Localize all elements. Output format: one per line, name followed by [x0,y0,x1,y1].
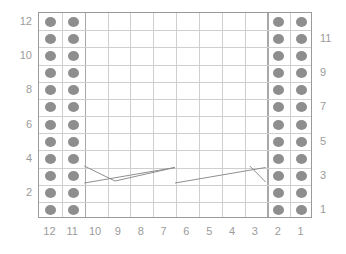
purl-dot-icon [45,68,56,78]
chart-cell-r11-s7 [153,30,176,47]
chart-cell-r3-s8 [130,168,153,185]
chart-cell-r10-s2 [267,47,290,64]
purl-dot-icon [296,137,307,147]
column-label-12: 12 [43,226,55,237]
chart-cell-r5-s12 [39,133,62,150]
purl-dot-icon [296,205,307,215]
row-label-right-7: 7 [320,101,344,112]
chart-cell-r6-s1 [290,116,313,133]
chart-cell-r4-s7 [153,150,176,167]
purl-dot-icon [45,17,56,27]
chart-cell-r8-s8 [130,82,153,99]
chart-cell-r8-s12 [39,82,62,99]
chart-cell-r3-s5 [199,168,222,185]
chart-cell-r12-s11 [62,13,85,30]
chart-cell-r6-s3 [245,116,268,133]
purl-dot-icon [68,102,79,112]
chart-cell-r9-s6 [176,65,199,82]
row-label-left-6: 6 [8,118,32,129]
chart-cell-r8-s3 [245,82,268,99]
chart-cell-r4-s6 [176,150,199,167]
chart-cell-r12-s3 [245,13,268,30]
chart-cell-r8-s10 [85,82,108,99]
purl-dot-icon [273,205,284,215]
purl-dot-icon [273,68,284,78]
chart-cell-r6-s11 [62,116,85,133]
chart-cell-r3-s12 [39,168,62,185]
chart-cell-r5-s8 [130,133,153,150]
chart-cell-r4-s2 [267,150,290,167]
chart-cell-r7-s8 [130,99,153,116]
chart-cells [39,13,311,217]
chart-cell-r12-s12 [39,13,62,30]
chart-cell-r9-s2 [267,65,290,82]
chart-cell-r6-s12 [39,116,62,133]
chart-cell-r11-s9 [108,30,131,47]
chart-cell-r2-s1 [290,185,313,202]
chart-cell-r8-s11 [62,82,85,99]
chart-cell-r10-s10 [85,47,108,64]
knitting-cable-chart: 12108642 1197531 121110987654321 [0,0,346,254]
chart-cell-r8-s5 [199,82,222,99]
chart-cell-r10-s7 [153,47,176,64]
chart-cell-r11-s1 [290,30,313,47]
chart-cell-r8-s6 [176,82,199,99]
chart-cell-r4-s10 [85,150,108,167]
purl-dot-icon [68,120,79,130]
chart-cell-r11-s11 [62,30,85,47]
purl-dot-icon [45,137,56,147]
chart-cell-r1-s9 [108,202,131,219]
chart-cell-r9-s4 [222,65,245,82]
purl-dot-icon [273,102,284,112]
chart-cell-r1-s6 [176,202,199,219]
chart-cell-r1-s10 [85,202,108,219]
chart-cell-r9-s1 [290,65,313,82]
chart-cell-r5-s3 [245,133,268,150]
chart-cell-r2-s3 [245,185,268,202]
chart-cell-r2-s10 [85,185,108,202]
purl-dot-icon [296,120,307,130]
purl-dot-icon [68,51,79,61]
row-label-left-12: 12 [8,15,32,26]
chart-cell-r4-s11 [62,150,85,167]
purl-dot-icon [273,85,284,95]
chart-cell-r2-s4 [222,185,245,202]
chart-cell-r11-s10 [85,30,108,47]
chart-cell-r4-s9 [108,150,131,167]
chart-cell-r10-s6 [176,47,199,64]
chart-cell-r4-s12 [39,150,62,167]
purl-dot-icon [68,171,79,181]
chart-cell-r1-s3 [245,202,268,219]
chart-cell-r10-s8 [130,47,153,64]
chart-cell-r11-s3 [245,30,268,47]
purl-dot-icon [273,17,284,27]
purl-dot-icon [296,188,307,198]
purl-dot-icon [296,154,307,164]
row-label-right-11: 11 [320,32,344,43]
purl-dot-icon [296,171,307,181]
purl-dot-icon [68,68,79,78]
chart-cell-r8-s4 [222,82,245,99]
chart-cell-r6-s2 [267,116,290,133]
chart-cell-r12-s6 [176,13,199,30]
chart-cell-r12-s1 [290,13,313,30]
chart-cell-r11-s4 [222,30,245,47]
chart-cell-r9-s8 [130,65,153,82]
chart-cell-r9-s12 [39,65,62,82]
purl-dot-icon [68,205,79,215]
purl-dot-icon [68,188,79,198]
chart-cell-r7-s10 [85,99,108,116]
row-label-left-4: 4 [8,152,32,163]
chart-cell-r4-s4 [222,150,245,167]
purl-dot-icon [45,188,56,198]
chart-cell-r12-s10 [85,13,108,30]
chart-cell-r2-s12 [39,185,62,202]
chart-cell-r7-s5 [199,99,222,116]
row-label-right-9: 9 [320,67,344,78]
chart-cell-r8-s9 [108,82,131,99]
column-label-4: 4 [229,226,235,237]
chart-cell-r9-s5 [199,65,222,82]
purl-dot-icon [273,120,284,130]
chart-cell-r6-s7 [153,116,176,133]
chart-grid [38,12,312,218]
